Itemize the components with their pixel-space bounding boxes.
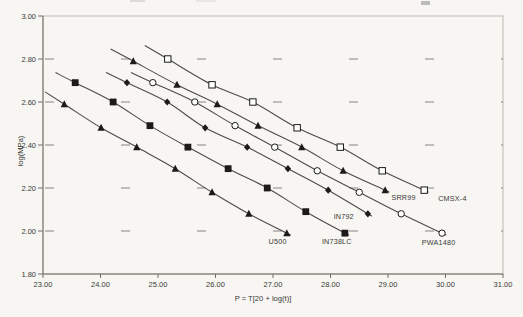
marker-open-square-cmsx4 <box>209 82 215 88</box>
marker-open-square-cmsx4 <box>250 99 256 105</box>
series-curve-u500 <box>45 92 290 235</box>
series-label-srr99: SRR99 <box>391 193 415 202</box>
marker-circle-pwa1480 <box>232 122 238 128</box>
cropped-title-artifact <box>196 0 216 2</box>
cropped-title-artifact <box>421 1 430 5</box>
larson-miller-chart: 3.002.802.602.402.202.001.8023.0024.0025… <box>0 0 523 317</box>
marker-open-square-cmsx4 <box>379 168 385 174</box>
cropped-title-artifact <box>130 0 145 2</box>
marker-triangle-srr99 <box>130 57 137 64</box>
marker-circle-pwa1480 <box>356 189 362 195</box>
x-axis-title: P = T[20 + log(t)] <box>235 294 292 303</box>
series-label-u500: U500 <box>269 237 287 246</box>
marker-square-in738lc <box>147 122 154 129</box>
marker-circle-pwa1480 <box>314 168 320 174</box>
scanned-chart-page: 3.002.802.602.402.202.001.8023.0024.0025… <box>0 0 523 317</box>
marker-square-in738lc <box>302 208 309 215</box>
marker-open-square-cmsx4 <box>294 125 300 131</box>
x-tick-label: 31.00 <box>494 280 513 289</box>
marker-triangle-srr99 <box>214 100 221 107</box>
marker-triangle-u500 <box>245 210 252 217</box>
marker-square-in738lc <box>185 144 192 151</box>
marker-diamond-in792 <box>164 98 170 105</box>
y-tick-label: 2.80 <box>21 55 36 64</box>
marker-diamond-in792 <box>202 124 208 131</box>
marker-square-in738lc <box>264 185 271 192</box>
marker-circle-pwa1480 <box>439 230 445 236</box>
marker-triangle-u500 <box>172 165 179 172</box>
marker-square-in738lc <box>72 79 79 86</box>
x-tick-label: 23.00 <box>34 280 53 289</box>
marker-triangle-u500 <box>97 124 104 131</box>
marker-square-in738lc <box>225 165 232 172</box>
marker-diamond-in792 <box>325 187 331 194</box>
x-tick-label: 28.00 <box>321 280 340 289</box>
x-tick-label: 29.00 <box>379 280 398 289</box>
series-label-in738lc: IN738LC <box>322 237 352 246</box>
marker-circle-pwa1480 <box>398 211 404 217</box>
chart-plot-area: 3.002.802.602.402.202.001.8023.0024.0025… <box>21 0 512 289</box>
marker-open-square-cmsx4 <box>421 187 427 193</box>
marker-diamond-in792 <box>285 165 291 172</box>
marker-triangle-srr99 <box>340 167 347 174</box>
marker-diamond-in792 <box>244 144 250 151</box>
marker-triangle-srr99 <box>298 143 305 150</box>
marker-diamond-in792 <box>365 210 371 217</box>
marker-open-square-cmsx4 <box>337 144 343 150</box>
marker-triangle-u500 <box>61 100 68 107</box>
x-tick-label: 26.00 <box>206 280 225 289</box>
x-tick-label: 24.00 <box>91 280 110 289</box>
series-curve-srr99 <box>111 49 389 192</box>
x-tick-label: 27.00 <box>264 280 283 289</box>
y-tick-label: 2.00 <box>21 227 36 236</box>
marker-circle-pwa1480 <box>150 79 156 85</box>
series-label-in792: IN792 <box>334 212 354 221</box>
marker-diamond-in792 <box>124 79 130 86</box>
marker-circle-pwa1480 <box>272 144 278 150</box>
y-tick-label: 2.60 <box>21 98 36 107</box>
marker-triangle-srr99 <box>254 122 261 129</box>
series-curve-in792 <box>106 73 372 216</box>
marker-triangle-u500 <box>208 188 215 195</box>
y-tick-label: 3.00 <box>21 12 36 21</box>
marker-triangle-u500 <box>133 143 140 150</box>
x-tick-label: 30.00 <box>436 280 455 289</box>
y-tick-label: 1.80 <box>21 270 36 279</box>
series-label-cmsx4: CMSX-4 <box>438 194 466 203</box>
marker-square-in738lc <box>341 230 348 237</box>
y-tick-label: 2.20 <box>21 184 36 193</box>
x-tick-label: 25.00 <box>149 280 168 289</box>
marker-open-square-cmsx4 <box>165 56 171 62</box>
marker-circle-pwa1480 <box>192 99 198 105</box>
marker-square-in738lc <box>110 99 117 106</box>
series-label-pwa1480: PWA1480 <box>422 238 456 247</box>
series-curve-pwa1480 <box>131 73 446 235</box>
y-axis-title: log(MPa) <box>16 135 25 166</box>
marker-triangle-u500 <box>283 229 290 236</box>
marker-triangle-srr99 <box>173 81 180 88</box>
